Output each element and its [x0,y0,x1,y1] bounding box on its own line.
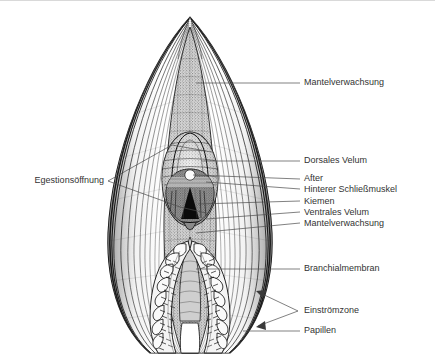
label-ventrales-velum: Ventrales Velum [304,207,369,217]
label-mantelverwachsung-top: Mantelverwachsung [304,77,384,87]
label-kiemen: Kiemen [304,196,335,206]
label-after: After [304,173,323,183]
label-papillen: Papillen [304,325,336,335]
label-mantelverwachsung-mid: Mantelverwachsung [304,218,384,228]
label-egestionsoeffnung: Egestionsöffnung [35,175,104,185]
label-dorsales-velum: Dorsales Velum [304,155,367,165]
ventral-gap [180,323,199,353]
bivalve-diagram-svg: Mantelverwachsung Egestionsöffnung Dorsa… [0,1,435,360]
anatomical-figure: Mantelverwachsung Egestionsöffnung Dorsa… [0,0,435,360]
label-einstroemzone: Einströmzone [304,305,359,315]
label-hinterer-schliessmuskel: Hinterer Schließmuskel [304,184,397,194]
label-branchialmembran: Branchialmembran [304,263,380,273]
